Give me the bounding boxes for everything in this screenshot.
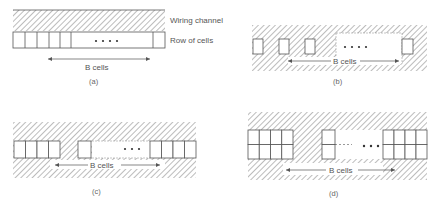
channel-gap bbox=[335, 130, 383, 159]
panel-a: B cells (a) Wiring channel Row of cells bbox=[13, 10, 223, 86]
caption-c: (c) bbox=[92, 187, 101, 196]
panel-d: B cells (d) bbox=[248, 112, 427, 198]
row-of-cells-label: Row of cells bbox=[170, 36, 213, 45]
caption-a: (a) bbox=[89, 77, 99, 86]
span-label: B cells bbox=[329, 166, 353, 175]
row-of-cells bbox=[13, 32, 165, 48]
caption-d: (d) bbox=[329, 189, 339, 198]
caption-b: (b) bbox=[333, 77, 343, 86]
panel-c: B cells (c) bbox=[13, 122, 196, 196]
cell-block-right bbox=[383, 130, 427, 159]
panel-b: B cells (b) bbox=[252, 25, 427, 86]
cell-group-right bbox=[150, 141, 196, 158]
span-label: B cells bbox=[333, 57, 357, 66]
wiring-channel bbox=[13, 10, 165, 31]
cell-group-left bbox=[14, 141, 60, 158]
span-label: B cells bbox=[85, 63, 109, 72]
channel-gap bbox=[92, 141, 150, 158]
cell-block-left bbox=[248, 130, 293, 159]
cell bbox=[78, 141, 91, 158]
span-label: B cells bbox=[90, 161, 114, 170]
cell-block-middle bbox=[322, 130, 335, 159]
wiring-channel-label: Wiring channel bbox=[170, 16, 223, 25]
cell-layout-diagram: B cells (a) Wiring channel Row of cells … bbox=[0, 0, 440, 208]
